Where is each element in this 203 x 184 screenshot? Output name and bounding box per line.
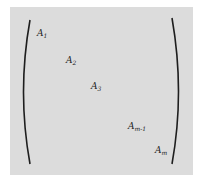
- left-parenthesis: [24, 20, 31, 164]
- matrix-entry-a3: A3: [91, 82, 101, 92]
- matrix-entry-a2: A2: [66, 56, 76, 66]
- matrix-entry-a1: A1: [37, 29, 47, 39]
- matrix-entry-a-m-minus-1: Am-1: [128, 122, 146, 132]
- matrix-brackets: [0, 0, 203, 184]
- matrix-entry-a-m: Am: [155, 146, 167, 156]
- right-parenthesis: [172, 18, 179, 164]
